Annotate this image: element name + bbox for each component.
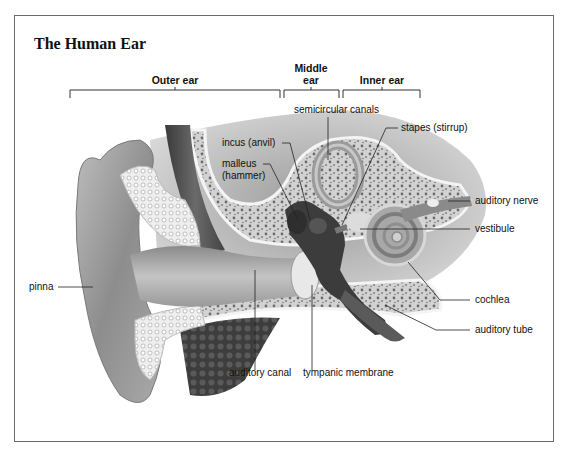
malleus-shape <box>287 210 307 234</box>
parotid-gland <box>180 318 280 397</box>
nerve-highlight <box>427 199 439 207</box>
middle-ear-bracket <box>284 87 339 98</box>
outer-ear-bracket <box>70 87 280 98</box>
label-auditory-canal: auditory canal <box>229 367 291 379</box>
label-malleus-line2: (hammer) <box>222 170 265 182</box>
label-stapes: stapes (stirrup) <box>401 122 468 134</box>
label-auditory-nerve: auditory nerve <box>475 195 538 207</box>
outer-ear-heading: Outer ear <box>145 74 205 86</box>
label-malleus-line1: malleus <box>222 158 265 170</box>
label-tympanic-membrane: tympanic membrane <box>303 367 394 379</box>
label-incus: incus (anvil) <box>222 137 275 149</box>
label-semicircular-canals: semicircular canals <box>294 104 379 116</box>
incus-shape <box>309 218 327 234</box>
middle-ear-heading-line2: ear <box>286 74 336 86</box>
inner-ear-bracket <box>343 87 420 98</box>
middle-ear-heading: Middle ear <box>286 62 336 86</box>
label-vestibule: vestibule <box>475 223 514 235</box>
section-brackets <box>70 87 420 98</box>
label-cochlea: cochlea <box>475 294 509 306</box>
label-pinna: pinna <box>29 281 53 293</box>
label-malleus: malleus (hammer) <box>222 158 265 182</box>
inner-ear-heading: Inner ear <box>350 74 414 86</box>
middle-ear-heading-line1: Middle <box>286 62 336 74</box>
label-auditory-tube: auditory tube <box>475 324 533 336</box>
